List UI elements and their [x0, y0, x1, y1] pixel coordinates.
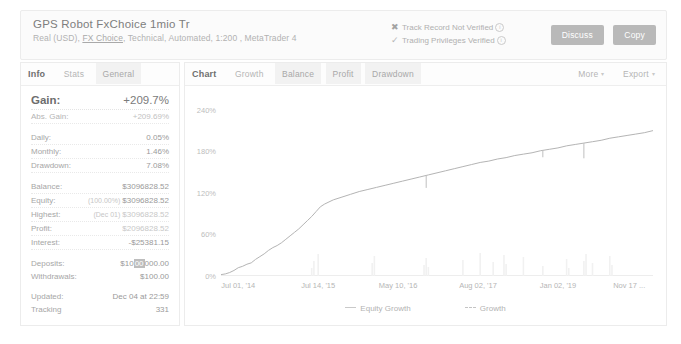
stat-row-profit: Profit: $2096828.52 — [31, 222, 169, 236]
tab-drawdown[interactable]: Drawdown — [365, 63, 421, 84]
equity-percent: (100.00%) — [88, 197, 122, 204]
legend-swatch-equity-growth — [345, 307, 356, 308]
withdrawals-value: $100.00 — [140, 272, 169, 281]
gain-value: +209.7% — [123, 94, 169, 106]
more-dropdown[interactable]: More▾ — [571, 63, 611, 84]
y-axis-tick: 240% — [197, 105, 216, 114]
export-label: Export — [623, 69, 649, 79]
stats-list: Gain: +209.7% Abs. Gain: +209.69% Daily:… — [21, 86, 179, 316]
stat-row-balance: Balance: $3096828.52 — [31, 180, 169, 194]
header-actions: Discuss Copy — [546, 24, 656, 45]
highest-label: Highest: — [31, 210, 60, 219]
legend-item-growth[interactable]: Growth — [465, 304, 506, 313]
deposits-value-post: 000.00 — [145, 259, 169, 268]
balance-value: $3096828.52 — [122, 182, 169, 191]
tab-stats[interactable]: Stats — [57, 63, 91, 84]
trading-privileges-label: Trading Privileges Verified — [402, 36, 495, 45]
account-header: GPS Robot FxChoice 1mio Tr Real (USD), F… — [20, 10, 667, 60]
tab-profit[interactable]: Profit — [326, 63, 361, 84]
x-axis-tick: Jan 02, '19 — [540, 281, 576, 290]
export-dropdown[interactable]: Export▾ — [616, 63, 662, 84]
x-axis-tick: Jul 01, '14 — [221, 281, 255, 290]
interest-value: -$25381.15 — [129, 238, 169, 247]
tab-general[interactable]: General — [96, 63, 142, 84]
updated-value: Dec 04 at 22:59 — [113, 292, 169, 301]
account-subtitle: Real (USD), FX Choice, Technical, Automa… — [33, 33, 297, 43]
verification-status: ✖Track Record Not Verifiedi ✓Trading Pri… — [391, 21, 506, 47]
stats-divider — [31, 250, 169, 257]
profit-label: Profit: — [31, 224, 52, 233]
chart-panel: Chart Growth Balance Profit Drawdown Mor… — [184, 62, 667, 326]
daily-label: Daily: — [31, 133, 51, 142]
abs-gain-label: Abs. Gain: — [31, 112, 68, 121]
check-icon: ✓ — [391, 35, 402, 45]
stats-panel: Info Stats General Gain: +209.7% Abs. Ga… — [20, 62, 180, 326]
y-axis-tick: 120% — [197, 188, 216, 197]
monthly-value: 1.46% — [146, 147, 169, 156]
chevron-down-icon: ▾ — [652, 70, 655, 77]
highest-value: (Dec 01)$3096828.52 — [93, 210, 169, 219]
drawdown-value: 7.08% — [146, 161, 169, 170]
stat-row-tracking: Tracking 331 — [31, 303, 169, 316]
stat-row-drawdown: Drawdown: 7.08% — [31, 159, 169, 173]
growth-line — [221, 131, 653, 275]
monthly-label: Monthly: — [31, 147, 61, 156]
x-axis-tick: Aug 02, '17 — [459, 281, 497, 290]
stat-row-interest: Interest: -$25381.15 — [31, 236, 169, 250]
stat-row-deposits: Deposits: $1000000.00 — [31, 257, 169, 270]
cross-icon: ✖ — [391, 22, 402, 32]
tab-info[interactable]: Info — [21, 63, 52, 84]
withdrawals-label: Withdrawals: — [31, 272, 77, 281]
stat-row-daily: Daily: 0.05% — [31, 131, 169, 145]
x-axis-tick: Nov 17 ... — [613, 281, 645, 290]
abs-gain-value: +209.69% — [133, 112, 169, 121]
y-axis-tick: 60% — [201, 230, 216, 239]
chart-plot-area[interactable]: 240%180%120%60%0%Jul 01, '14Jul 14, '15M… — [221, 96, 653, 276]
stats-tabbar: Info Stats General — [21, 63, 179, 86]
chart-tools: More▾ Export▾ — [571, 63, 662, 84]
copy-button[interactable]: Copy — [613, 25, 656, 45]
stats-divider — [31, 173, 169, 180]
stats-divider — [31, 124, 169, 131]
equity-label: Equity: — [31, 196, 55, 205]
chart-legend: Equity Growth Growth — [185, 304, 666, 313]
tab-balance[interactable]: Balance — [275, 63, 321, 84]
broker-link[interactable]: FX Choice — [82, 33, 123, 43]
legend-item-equity-growth[interactable]: Equity Growth — [345, 304, 410, 313]
tracking-label: Tracking — [31, 305, 61, 314]
drawdown-label: Drawdown: — [31, 161, 71, 170]
info-icon[interactable]: i — [497, 36, 506, 45]
chart-tabbar: Chart Growth Balance Profit Drawdown Mor… — [185, 63, 666, 86]
legend-label-equity-growth: Equity Growth — [360, 304, 410, 313]
deposits-label: Deposits: — [31, 259, 64, 268]
stat-row-updated: Updated: Dec 04 at 22:59 — [31, 290, 169, 303]
x-axis-tick: May 10, '16 — [379, 281, 418, 290]
chart-svg — [221, 96, 653, 276]
highest-date: (Dec 01) — [93, 211, 122, 218]
gain-label: Gain: — [31, 94, 60, 106]
balance-label: Balance: — [31, 182, 62, 191]
account-identity: GPS Robot FxChoice 1mio Tr Real (USD), F… — [33, 18, 297, 43]
stat-row-withdrawals: Withdrawals: $100.00 — [31, 270, 169, 283]
account-type: Real (USD), — [33, 33, 82, 43]
profit-value: $2096828.52 — [122, 224, 169, 233]
daily-value: 0.05% — [146, 133, 169, 142]
tab-chart[interactable]: Chart — [185, 63, 224, 84]
stat-row-monthly: Monthly: 1.46% — [31, 145, 169, 159]
stat-row-highest: Highest: (Dec 01)$3096828.52 — [31, 208, 169, 222]
info-icon[interactable]: i — [495, 23, 504, 32]
growth-chart[interactable]: 240%180%120%60%0%Jul 01, '14Jul 14, '15M… — [185, 86, 666, 325]
y-axis-tick: 180% — [197, 147, 216, 156]
deposits-value-pre: $10 — [120, 259, 133, 268]
equity-amount: $3096828.52 — [122, 196, 169, 205]
deposits-value: $1000000.00 — [120, 259, 169, 268]
tab-growth[interactable]: Growth — [228, 63, 271, 84]
interest-label: Interest: — [31, 238, 60, 247]
tracking-value: 331 — [156, 305, 169, 314]
more-label: More — [578, 69, 598, 79]
discuss-button[interactable]: Discuss — [551, 25, 604, 45]
highest-amount: $3096828.52 — [122, 210, 169, 219]
track-record-status: ✖Track Record Not Verifiedi — [391, 21, 506, 34]
stats-divider — [31, 283, 169, 290]
stat-row-abs-gain: Abs. Gain: +209.69% — [31, 110, 169, 124]
